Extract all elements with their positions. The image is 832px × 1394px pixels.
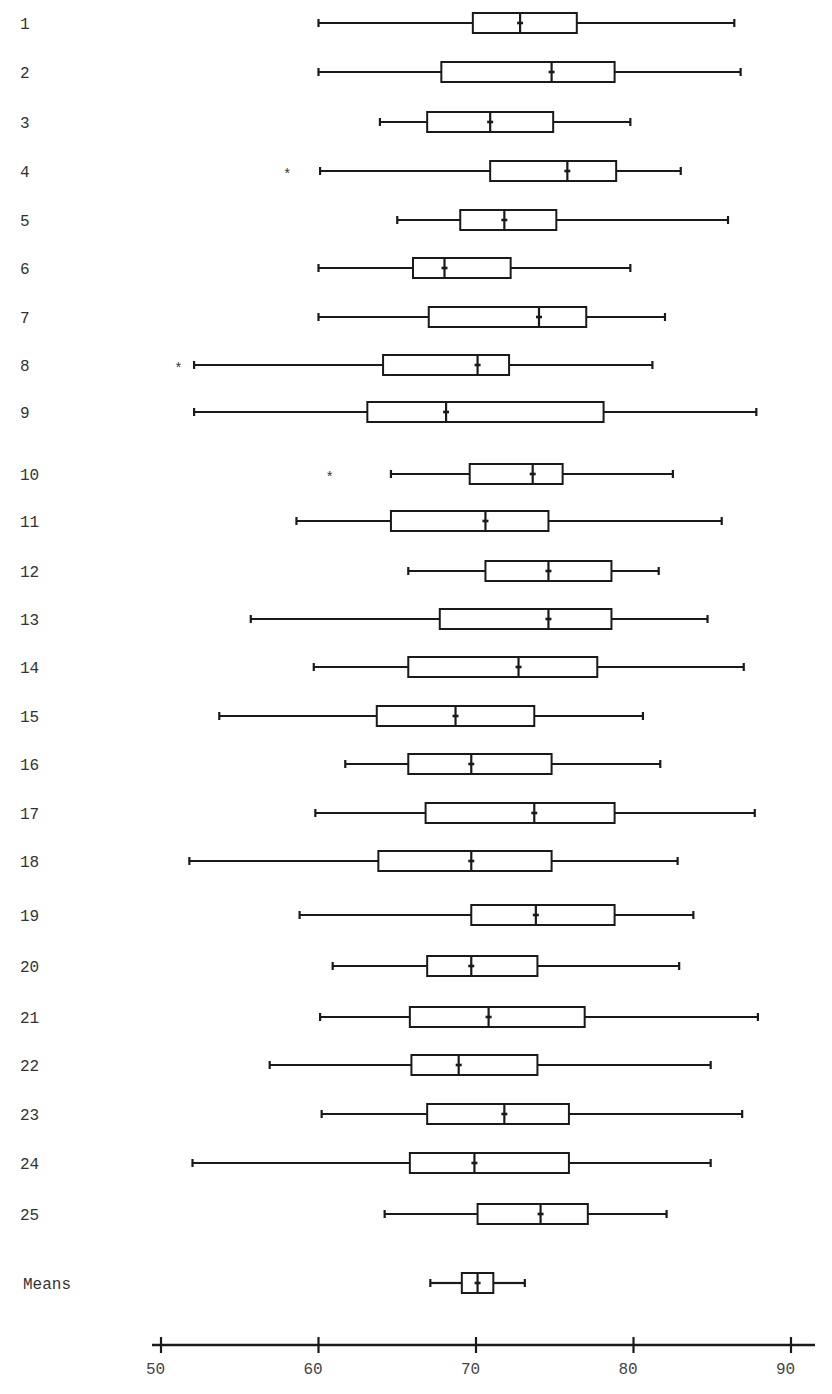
row-label: Means bbox=[23, 1276, 71, 1294]
box-row: 10* bbox=[20, 464, 673, 486]
figure-caption bbox=[0, 1382, 832, 1394]
row-label: 17 bbox=[20, 806, 39, 824]
box-row: 2 bbox=[20, 62, 741, 83]
row-label: 12 bbox=[20, 564, 39, 582]
row-label: 16 bbox=[20, 757, 39, 775]
box-row: 3 bbox=[20, 112, 630, 133]
box-row: 5 bbox=[20, 210, 728, 231]
row-label: 9 bbox=[20, 405, 30, 423]
iqr-box bbox=[426, 803, 615, 823]
tick-label: 90 bbox=[776, 1361, 795, 1379]
row-label: 24 bbox=[20, 1156, 39, 1174]
row-label: 20 bbox=[20, 959, 39, 977]
row-label: 14 bbox=[20, 660, 39, 678]
box-row: 20 bbox=[20, 956, 679, 977]
iqr-box bbox=[411, 1055, 537, 1075]
box-row: 21 bbox=[20, 1007, 758, 1028]
row-label: 8 bbox=[20, 358, 30, 376]
row-label: 13 bbox=[20, 612, 39, 630]
x-axis: 5060708090 bbox=[146, 1337, 815, 1379]
iqr-box bbox=[441, 62, 614, 82]
box-row: 12 bbox=[20, 561, 659, 582]
iqr-box bbox=[478, 1204, 588, 1224]
box-row: Means bbox=[23, 1273, 525, 1294]
iqr-box bbox=[408, 657, 597, 677]
row-label: 11 bbox=[20, 514, 39, 532]
box-row: 6 bbox=[20, 258, 630, 279]
tick-label: 70 bbox=[461, 1361, 480, 1379]
row-label: 7 bbox=[20, 310, 30, 328]
box-row: 7 bbox=[20, 307, 665, 328]
iqr-box bbox=[408, 754, 551, 774]
iqr-box bbox=[460, 210, 556, 230]
tick-label: 50 bbox=[146, 1361, 165, 1379]
box-row: 1 bbox=[20, 13, 734, 34]
box-rows: 1234*5678*910*11121314151617181920212223… bbox=[20, 13, 758, 1294]
outlier-marker: * bbox=[174, 361, 182, 377]
box-row: 17 bbox=[20, 803, 755, 824]
tick-label: 60 bbox=[304, 1361, 323, 1379]
row-label: 19 bbox=[20, 908, 39, 926]
box-row: 15 bbox=[20, 706, 643, 727]
box-row: 9 bbox=[20, 402, 756, 423]
iqr-box bbox=[470, 464, 563, 484]
box-row: 11 bbox=[20, 511, 722, 532]
iqr-box bbox=[410, 1007, 585, 1027]
row-label: 3 bbox=[20, 115, 30, 133]
box-row: 16 bbox=[20, 754, 660, 775]
row-label: 6 bbox=[20, 261, 30, 279]
outlier-marker: * bbox=[283, 167, 291, 183]
row-label: 1 bbox=[20, 16, 30, 34]
iqr-box bbox=[473, 13, 577, 33]
tick-label: 80 bbox=[619, 1361, 638, 1379]
iqr-box bbox=[490, 161, 616, 181]
box-row: 4* bbox=[20, 161, 681, 183]
row-label: 18 bbox=[20, 854, 39, 872]
box-row: 22 bbox=[20, 1055, 711, 1076]
box-row: 18 bbox=[20, 851, 678, 872]
box-row: 8* bbox=[20, 355, 652, 377]
box-row: 19 bbox=[20, 905, 693, 926]
box-row: 25 bbox=[20, 1204, 667, 1225]
boxplot-chart: 1234*5678*910*11121314151617181920212223… bbox=[0, 0, 832, 1394]
row-label: 5 bbox=[20, 213, 30, 231]
outlier-marker: * bbox=[326, 470, 334, 486]
row-label: 2 bbox=[20, 65, 30, 83]
iqr-box bbox=[440, 609, 612, 629]
iqr-box bbox=[383, 355, 509, 375]
row-label: 10 bbox=[20, 467, 39, 485]
box-row: 13 bbox=[20, 609, 708, 630]
row-label: 15 bbox=[20, 709, 39, 727]
box-row: 14 bbox=[20, 657, 744, 678]
iqr-box bbox=[427, 956, 537, 976]
iqr-box bbox=[410, 1153, 569, 1173]
box-row: 24 bbox=[20, 1153, 711, 1174]
iqr-box bbox=[429, 307, 587, 327]
row-label: 22 bbox=[20, 1058, 39, 1076]
row-label: 21 bbox=[20, 1010, 39, 1028]
row-label: 25 bbox=[20, 1207, 39, 1225]
iqr-box bbox=[471, 905, 614, 925]
row-label: 23 bbox=[20, 1107, 39, 1125]
iqr-box bbox=[391, 511, 549, 531]
iqr-box bbox=[378, 851, 551, 871]
box-row: 23 bbox=[20, 1104, 742, 1125]
iqr-box bbox=[427, 1104, 569, 1124]
iqr-box bbox=[367, 402, 603, 422]
iqr-box bbox=[413, 258, 511, 278]
row-label: 4 bbox=[20, 164, 30, 182]
